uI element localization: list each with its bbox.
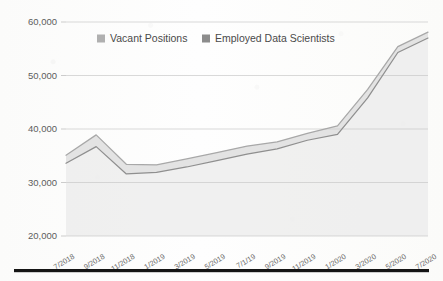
- area-fill-employed-data-scientists: [66, 38, 428, 236]
- y-axis-tick-label: 40,000: [28, 123, 57, 134]
- x-axis-tick-label: 7/2018: [52, 252, 76, 271]
- chart-canvas: 60,00050,00040,00030,00020,000 7/20189/2…: [0, 0, 443, 281]
- legend-swatch-employed-data-scientists: [202, 35, 210, 43]
- x-axis-tick-label: 7/1/19: [235, 252, 257, 270]
- x-axis-tick-label: 1/2020: [324, 252, 348, 271]
- y-axis-tick-label: 20,000: [28, 230, 57, 241]
- legend-label-vacant-positions: Vacant Positions: [110, 32, 187, 44]
- y-axis-tick-label: 60,000: [28, 16, 57, 27]
- area-chart: 60,00050,00040,00030,00020,000 7/20189/2…: [0, 0, 443, 281]
- x-axis-tick-label: 7/2020: [414, 252, 438, 271]
- x-axis-tick-label: 9/2018: [82, 252, 106, 271]
- y-axis-tick-label: 30,000: [28, 177, 57, 188]
- x-axis-tick-label: 9/2019: [263, 252, 287, 271]
- y-axis-labels: 60,00050,00040,00030,00020,000: [28, 16, 57, 241]
- x-axis-tick-label: 3/2020: [354, 252, 378, 271]
- y-axis-tick-label: 50,000: [28, 70, 57, 81]
- x-axis-tick-label: 5/2020: [384, 252, 408, 271]
- x-axis-tick-label: 3/2019: [173, 252, 197, 271]
- page-bottom-rule: [14, 269, 429, 272]
- x-axis-tick-label: 5/2019: [203, 252, 227, 271]
- area-fill-layer: [66, 32, 428, 236]
- legend-label-employed-data-scientists: Employed Data Scientists: [215, 32, 335, 44]
- chart-legend: Vacant Positions Employed Data Scientist…: [97, 32, 335, 44]
- legend-swatch-vacant-positions: [97, 35, 105, 43]
- x-axis-tick-label: 1/2019: [143, 252, 167, 271]
